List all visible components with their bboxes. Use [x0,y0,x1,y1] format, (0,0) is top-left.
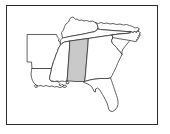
gulf-coast-detail [66,81,69,84]
map-figure [0,0,170,134]
state-florida[interactable] [84,78,118,112]
southeastern-us-map [0,0,170,134]
mississippi-delta-detail [63,85,67,88]
